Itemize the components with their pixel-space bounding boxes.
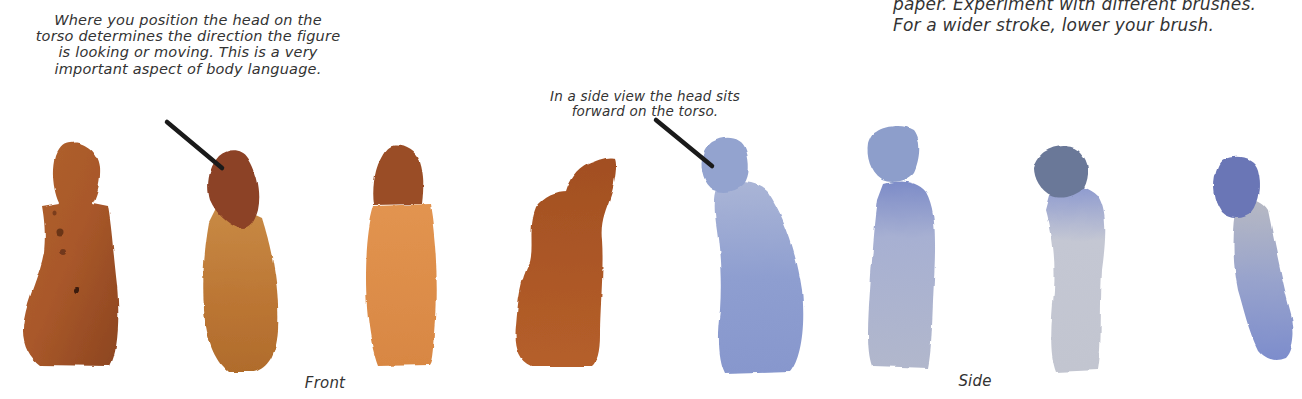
side-figure-blue-2 xyxy=(868,126,936,368)
side-figure-brown xyxy=(516,157,617,366)
top-right-note-line-1: paper. Experiment with different brushes… xyxy=(893,0,1302,15)
front-note-line-4: important aspect of body language. xyxy=(8,61,368,77)
top-right-note-line-2: For a wider stroke, lower your brush. xyxy=(893,15,1302,36)
pointer-line-front xyxy=(167,122,222,168)
side-figure-gray-blue xyxy=(1034,146,1105,372)
front-label: Front xyxy=(285,375,365,392)
pointer-line-side xyxy=(656,120,712,166)
front-note-line-2: torso determines the direction the figur… xyxy=(8,28,368,44)
side-note-caption: In a side view the head sits forward on … xyxy=(510,89,780,119)
side-figure-blue-1 xyxy=(702,138,804,374)
top-right-note-caption: paper. Experiment with different brushes… xyxy=(893,0,1302,37)
side-figure-blue-4 xyxy=(1214,157,1293,360)
side-note-line-1: In a side view the head sits xyxy=(510,89,780,104)
side-label: Side xyxy=(940,373,1010,390)
front-figure-2-head-tilted xyxy=(203,150,278,372)
front-figure-1 xyxy=(23,142,118,366)
front-note-caption: Where you position the head on the torso… xyxy=(8,12,368,77)
side-note-line-2: forward on the torso. xyxy=(510,104,780,119)
front-note-line-3: is looking or moving. This is a very xyxy=(8,44,368,60)
front-figure-3 xyxy=(366,146,437,366)
front-note-line-1: Where you position the head on the xyxy=(8,12,368,28)
